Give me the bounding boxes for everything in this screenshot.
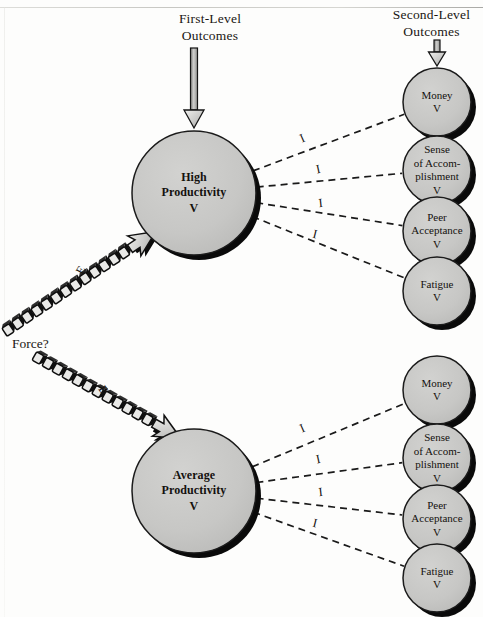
instrumentality-letter: I <box>298 131 308 145</box>
node-fatigue-bottom[interactable] <box>403 544 471 612</box>
first-level-outcomes-title: First-Level Outcomes <box>140 10 280 44</box>
instrumentality-letter: I <box>318 485 324 499</box>
instrumentality-link <box>253 512 404 566</box>
second-level-inflow-arrow <box>429 40 446 66</box>
node-fatigue-top[interactable] <box>403 257 471 325</box>
first-level-inflow-arrow <box>184 48 204 128</box>
instrumentality-letter: I <box>311 227 318 242</box>
expectancy-arrow-high <box>0 220 167 345</box>
second-level-outcomes-title: Second-Level Outcomes <box>380 6 483 40</box>
node-sense-top[interactable] <box>403 136 471 204</box>
node-peer-bottom[interactable] <box>403 485 471 553</box>
instrumentality-link <box>256 463 402 483</box>
instrumentality-letter: I <box>298 421 308 435</box>
instrumentality-letter: I <box>315 162 322 177</box>
instrumentality-letter: I <box>311 516 318 531</box>
force-label: Force? <box>12 336 49 352</box>
diagram-canvas: IIIIIIIIEE <box>0 0 483 617</box>
instrumentality-link <box>257 498 403 515</box>
instrumentality-link-group <box>252 114 405 566</box>
instrumentality-link <box>252 403 405 466</box>
diagram-page: IIIIIIIIEE First-Level Outcomes Second-L… <box>0 0 483 617</box>
instrumentality-link <box>256 203 402 226</box>
node-high-productivity[interactable] <box>132 131 256 255</box>
instrumentality-link <box>252 217 404 278</box>
instrumentality-letter: I <box>315 452 322 467</box>
node-average-productivity[interactable] <box>132 429 256 553</box>
instrumentality-letter: I <box>318 196 324 210</box>
node-money-bottom[interactable] <box>403 356 471 424</box>
instrumentality-link <box>253 114 404 171</box>
instrumentality-link <box>257 173 403 187</box>
node-sense-bottom[interactable] <box>403 424 471 492</box>
node-money-top[interactable] <box>403 68 471 136</box>
node-peer-top[interactable] <box>403 197 471 265</box>
node-group <box>132 68 476 617</box>
